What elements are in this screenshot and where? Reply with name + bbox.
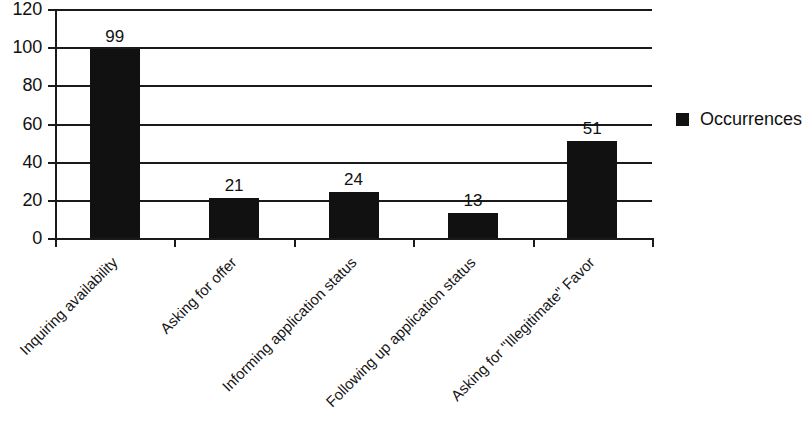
y-axis-tick — [48, 200, 55, 202]
bar — [329, 192, 379, 238]
y-axis-tick-label: 120 — [0, 0, 42, 18]
bar-value-label: 51 — [562, 120, 622, 137]
y-axis-tick-label: 100 — [0, 38, 42, 56]
x-axis-line — [55, 238, 654, 240]
y-axis-tick-label: 20 — [0, 191, 42, 209]
y-axis-tick-label: 60 — [0, 115, 42, 133]
x-axis-tick — [533, 238, 535, 247]
y-axis-tick — [48, 47, 55, 49]
y-axis-tick-label: 0 — [0, 229, 42, 247]
y-axis-tick — [48, 162, 55, 164]
bar — [448, 213, 498, 238]
x-axis-tick — [413, 238, 415, 247]
y-axis-tick — [48, 85, 55, 87]
legend-label-occurrences: Occurrences — [700, 110, 802, 128]
bar — [209, 198, 259, 238]
bar-value-label: 24 — [324, 171, 384, 188]
bar-value-label: 99 — [85, 28, 145, 45]
x-axis-tick — [294, 238, 296, 247]
x-axis-tick — [174, 238, 176, 247]
legend: Occurrences — [676, 110, 802, 128]
x-axis-end-tick — [55, 238, 57, 247]
bar-chart: 020406080100120 9921241351 Inquiring ava… — [0, 0, 808, 426]
bar — [90, 49, 140, 238]
legend-swatch-occurrences — [676, 113, 689, 126]
y-axis-tick-label: 40 — [0, 153, 42, 171]
bar — [567, 141, 617, 238]
y-axis-tick — [48, 124, 55, 126]
y-axis-tick-label: 80 — [0, 76, 42, 94]
y-axis-tick — [48, 238, 55, 240]
bar-value-label: 21 — [204, 177, 264, 194]
x-axis-category-label: Asking for "Illegitimate" Favor — [403, 254, 598, 426]
x-axis-end-tick — [652, 238, 654, 247]
bar-value-label: 13 — [443, 192, 503, 209]
y-axis-tick — [48, 9, 55, 11]
